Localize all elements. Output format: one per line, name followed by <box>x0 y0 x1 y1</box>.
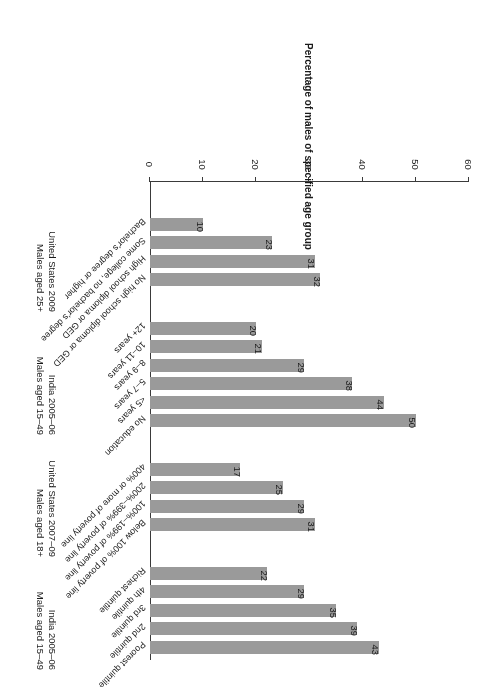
bar <box>150 463 240 476</box>
value-axis-title: Percentage of males of specified age gro… <box>304 37 315 257</box>
bar-value-label: 23 <box>263 240 275 251</box>
bar <box>150 322 256 335</box>
bar <box>150 359 304 372</box>
bar-value-label: 29 <box>295 503 307 514</box>
bar-value-label: 32 <box>311 277 323 288</box>
bar-value-label: 38 <box>343 381 355 392</box>
bar <box>150 255 315 268</box>
group-title: United States 2007–09Males aged 18+ <box>34 437 58 557</box>
group-title-line1: United States 2007–09 <box>46 437 58 557</box>
axis-tick-label: 50 <box>410 155 421 175</box>
bar <box>150 604 336 617</box>
bar-value-label: 29 <box>295 362 307 373</box>
group-title-line2: Males aged 15–49 <box>34 551 46 671</box>
bar <box>150 519 315 532</box>
group-title-line2: Males aged 18+ <box>34 437 46 557</box>
bar <box>150 396 384 409</box>
bar <box>150 415 416 428</box>
bar <box>150 623 357 636</box>
bar-value-label: 50 <box>407 418 419 429</box>
bar <box>150 567 267 580</box>
bar <box>150 586 304 599</box>
bar <box>150 641 379 654</box>
group-title: United States 2009Males aged 25+ <box>34 192 58 312</box>
bar-value-label: 25 <box>274 485 286 496</box>
chart-figure: 43393529223129251750443829212032312310 P… <box>0 0 493 690</box>
bar <box>150 341 262 354</box>
axis-tick-mark <box>468 178 469 182</box>
bar <box>150 500 304 513</box>
bar-value-label: 35 <box>327 607 339 618</box>
axis-tick-label: 10 <box>198 155 209 175</box>
bar <box>150 482 283 495</box>
axis-tick-label: 0 <box>145 155 156 175</box>
bar-value-label: 39 <box>348 626 360 637</box>
axis-tick-mark <box>415 178 416 182</box>
bar <box>150 237 272 250</box>
bar-value-label: 10 <box>194 221 206 232</box>
bar-value-label: 22 <box>258 570 270 581</box>
bar-value-label: 31 <box>306 258 318 269</box>
axis-tick-mark <box>149 178 150 182</box>
bar-value-label: 21 <box>253 344 265 355</box>
bar-value-label: 29 <box>295 589 307 600</box>
axis-tick-label: 40 <box>357 155 368 175</box>
bar-value-label: 20 <box>247 325 259 336</box>
bar-value-label: 31 <box>306 522 318 533</box>
group-title-line1: India 2005–06 <box>46 551 58 671</box>
group-title-line1: United States 2009 <box>46 192 58 312</box>
group-title-line2: Males aged 25+ <box>34 192 46 312</box>
axis-tick-mark <box>255 178 256 182</box>
axis-tick-label: 20 <box>251 155 262 175</box>
group-title: India 2005–06Males aged 15–49 <box>34 551 58 671</box>
bar <box>150 274 320 287</box>
axis-tick-mark <box>362 178 363 182</box>
bar-value-label: 17 <box>231 466 243 477</box>
bar-value-label: 44 <box>375 399 387 410</box>
bar <box>150 378 352 391</box>
bar-value-label: 43 <box>370 644 382 655</box>
axis-tick-mark <box>202 178 203 182</box>
axis-tick-label: 60 <box>464 155 475 175</box>
